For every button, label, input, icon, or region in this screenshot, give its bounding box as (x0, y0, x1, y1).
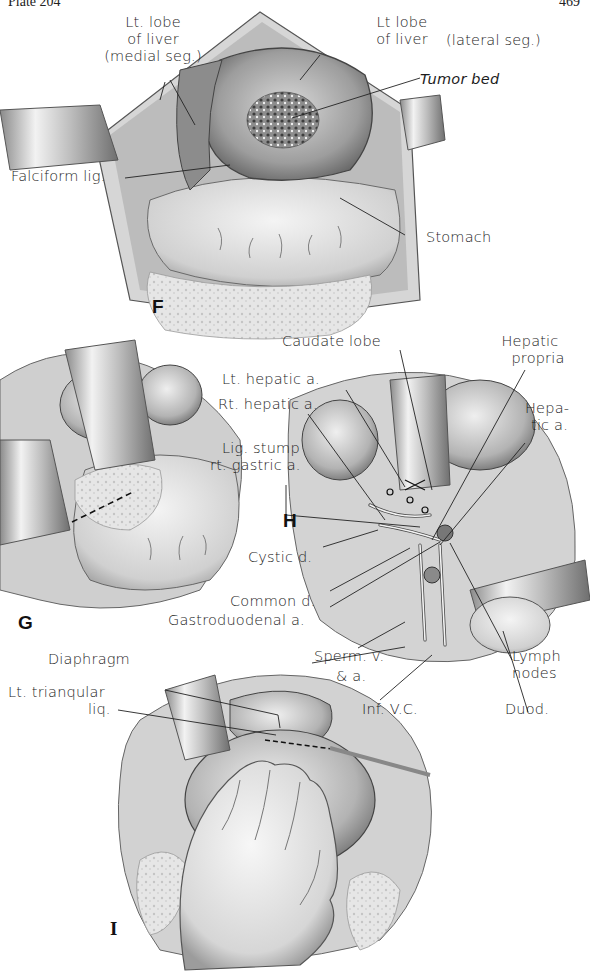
label-duod: Duod. (505, 701, 549, 718)
label-lt-lobe-lateral: Lt lobe of liver (362, 14, 442, 48)
label-diaphragm: Diaphragm (48, 651, 130, 668)
label-line: nodes (512, 665, 561, 682)
label-hepatic-propria: Hepatic propria (480, 333, 580, 367)
label-line: Lt. lobe (98, 14, 208, 31)
label-stomach: Stomach (426, 229, 491, 246)
panel-letter-g: G (18, 612, 33, 634)
illustration-canvas (0, 0, 590, 976)
label-line: liq. (8, 701, 111, 718)
label-line: tic a. (525, 417, 569, 434)
label-line: propria (480, 350, 580, 367)
label-line: Lt. trianqular (8, 684, 111, 701)
label-lig-stump-rt-gastric: Lig. stump rt. gastric a. (210, 440, 301, 474)
panel-letter-i: I (110, 918, 117, 940)
label-line: Lt lobe (362, 14, 442, 31)
label-line: Lymph (512, 648, 561, 665)
label-inf-vc: Inf. V.C. (362, 701, 418, 718)
label-rt-hepatic-a: Rt. hepatic a. (218, 396, 318, 413)
panel-letter-h: H (283, 510, 297, 532)
panel-letter-f: F (152, 296, 164, 318)
label-lt-triangular-lig: Lt. trianqular liq. (8, 684, 111, 718)
label-line: Hepa- (525, 400, 569, 417)
label-sperm-a: & a. (336, 668, 366, 685)
label-line: of liver (362, 31, 442, 48)
label-caudate-lobe: Caudate lobe (282, 333, 381, 350)
label-line: of liver (98, 31, 208, 48)
label-sperm-v: Sperm. v. (314, 648, 384, 665)
label-common-d: Common d. (230, 593, 316, 610)
label-line: (medial seg.) (98, 48, 208, 65)
panel-g-drawing (0, 340, 242, 608)
label-line: rt. gastric a. (210, 457, 301, 474)
label-hepatic-a: Hepa- tic a. (525, 400, 569, 434)
label-line: Hepatic (480, 333, 580, 350)
label-lt-hepatic-a: Lt. hepatic a. (222, 371, 320, 388)
label-gastroduodenal-a: Gastroduodenal a. (168, 612, 305, 629)
panel-i-drawing (118, 675, 431, 970)
label-lateral-seg: (lateral seg.) (446, 32, 541, 49)
label-line: Lig. stump (210, 440, 301, 457)
label-lt-lobe-medial: Lt. lobe of liver (medial seg.) (98, 14, 208, 65)
label-lymph-nodes: Lymph nodes (512, 648, 561, 682)
label-cystic-d: Cystic d. (248, 549, 312, 566)
label-falciform-lig: Falciform lig. (11, 168, 106, 185)
label-tumor-bed: Tumor bed (420, 71, 499, 88)
